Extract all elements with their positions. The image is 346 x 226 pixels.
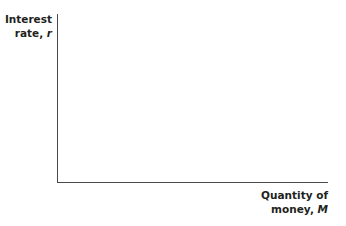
y-axis-variable: r (47, 27, 52, 39)
x-axis-variable: M (318, 203, 328, 215)
x-axis-label-line2: money, M (261, 202, 328, 216)
x-axis-label-text: money, (271, 203, 317, 215)
y-axis-label: Interest rate, r (0, 12, 52, 40)
y-axis-label-line2: rate, r (0, 26, 52, 40)
x-axis-line (57, 182, 328, 183)
y-axis-label-text: rate, (15, 27, 47, 39)
y-axis-label-line1: Interest (0, 12, 52, 26)
x-axis-label-line1: Quantity of (261, 188, 328, 202)
x-axis-label: Quantity of money, M (261, 188, 328, 216)
y-axis-line (57, 14, 58, 183)
